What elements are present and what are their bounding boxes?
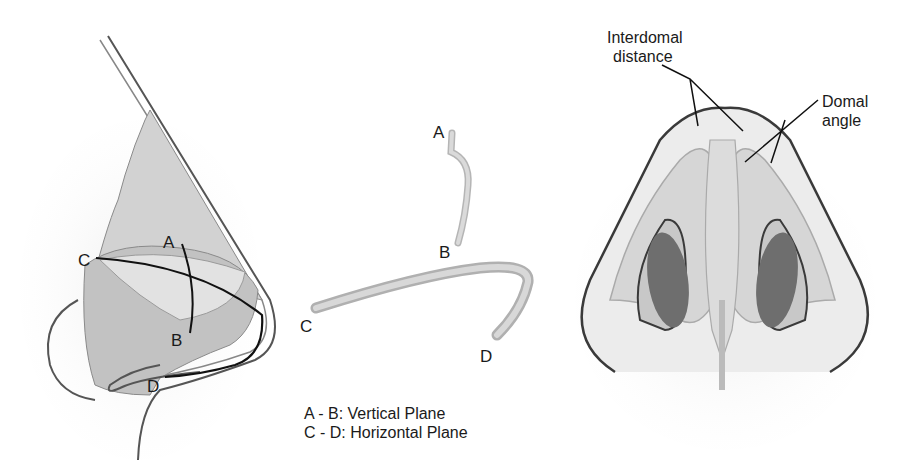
interdomal-line1: Interdomal [607, 28, 683, 47]
legend-horizontal-plane: C - D: Horizontal Plane [304, 423, 468, 442]
lateral-label-d: D [147, 377, 159, 396]
diagram-canvas: A B C D A B C D [0, 0, 900, 471]
domal-angle-annotation: Domal angle [822, 92, 868, 130]
domal-line2: angle [822, 111, 868, 130]
isolated-label-c: C [300, 317, 312, 336]
isolated-cartilage-curves: A B C D [300, 123, 528, 366]
interdomal-line2: distance [607, 47, 683, 66]
domal-line1: Domal [822, 92, 868, 111]
lateral-label-b: B [171, 331, 182, 350]
lateral-view-nose: A B C D [20, 36, 275, 460]
lateral-label-a: A [163, 233, 175, 252]
lateral-label-c: C [78, 251, 90, 270]
plane-legend: A - B: Vertical Plane C - D: Horizontal … [304, 404, 468, 442]
interdomal-distance-annotation: Interdomal distance [607, 28, 683, 66]
legend-vertical-plane: A - B: Vertical Plane [304, 404, 468, 423]
isolated-label-b: B [439, 243, 450, 262]
isolated-label-d: D [480, 347, 492, 366]
isolated-label-a: A [433, 123, 445, 142]
